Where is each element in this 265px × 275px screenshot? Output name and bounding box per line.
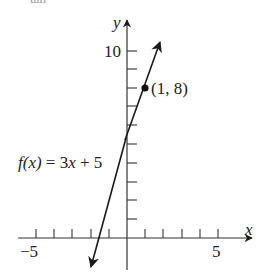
x-axis-label: x — [245, 221, 253, 238]
equation-tail: + 5 — [76, 153, 103, 172]
graph-canvas — [0, 0, 265, 275]
point-label: (1, 8) — [151, 80, 188, 97]
equation-x: x — [68, 153, 76, 172]
x-tick-label-neg5: −5 — [20, 243, 38, 260]
equation-label: f(x) = 3x + 5 — [18, 154, 102, 171]
equation-fx: f(x) — [18, 153, 42, 172]
point-marker — [141, 84, 148, 91]
y-tick-label-10: 10 — [104, 43, 121, 60]
equation-eq: = 3 — [42, 153, 69, 172]
y-axis-label: y — [113, 14, 121, 31]
x-tick-label-5: 5 — [212, 243, 221, 260]
y-ticks — [127, 51, 137, 219]
